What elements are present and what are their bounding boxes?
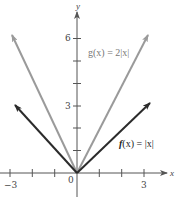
x-axis: x −3 3 0: [0, 168, 174, 190]
origin-label: 0: [68, 175, 74, 185]
series-f: f(x) = |x|: [15, 103, 154, 173]
x-tick-label-3: 3: [141, 180, 147, 190]
series-g: g(x) = 2|x|: [12, 35, 148, 173]
x-tick-label-neg3: −3: [4, 180, 18, 190]
g-function-label: g(x) = 2|x|: [88, 47, 129, 59]
y-tick-label-3: 3: [65, 101, 71, 111]
f-function-label: f(x) = |x|: [119, 138, 154, 150]
f-label-rest: (x) = |x|: [122, 138, 153, 150]
x-axis-label: x: [169, 168, 174, 178]
absolute-value-graph: x −3 3 0 y 6 3 g(x) = 2|x| f(x) = |x|: [0, 0, 178, 206]
y-tick-label-6: 6: [65, 33, 71, 43]
y-axis-label: y: [75, 1, 80, 11]
